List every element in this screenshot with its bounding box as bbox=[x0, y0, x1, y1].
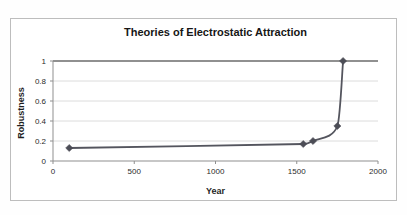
y-axis-tick-label: 0.2 bbox=[35, 137, 47, 146]
y-axis-tick-label: 0 bbox=[42, 157, 47, 166]
y-axis-tick-label: 0.8 bbox=[35, 77, 47, 86]
x-axis-tick-label: 500 bbox=[128, 167, 142, 176]
y-axis-tick-label: 0.6 bbox=[35, 97, 47, 106]
y-axis-tick-label: 0.4 bbox=[35, 117, 47, 126]
data-point-marker bbox=[339, 57, 346, 64]
series-line bbox=[69, 61, 343, 148]
x-axis-tick-label: 1000 bbox=[207, 167, 225, 176]
chart-screenshot: Theories of Electrostatic Attraction Rob… bbox=[0, 0, 407, 215]
data-point-marker bbox=[334, 122, 341, 129]
y-axis-tick-label: 1 bbox=[42, 57, 47, 66]
x-axis-tick-label: 1500 bbox=[288, 167, 306, 176]
plot-area: 00.20.40.60.810500100015002000 bbox=[0, 0, 407, 215]
x-axis-tick-label: 2000 bbox=[369, 167, 387, 176]
data-point-marker bbox=[309, 137, 316, 144]
data-point-marker bbox=[66, 144, 73, 151]
x-axis-tick-label: 0 bbox=[51, 167, 56, 176]
